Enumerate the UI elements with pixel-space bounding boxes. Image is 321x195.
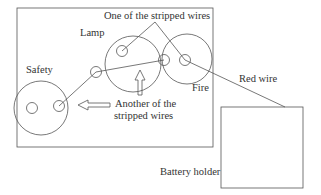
label-red-wire: Red wire [239,74,277,85]
lamp-switch-circle [105,36,161,92]
label-stripped-wire-another-2: stripped wires [114,111,173,122]
label-stripped-wire-another-1: Another of the [115,99,176,110]
wire-lamp-to-fire [96,60,164,72]
wiring-diagram: Lamp Safety Fire One of the stripped wir… [0,0,321,195]
label-stripped-wire-one: One of the stripped wires [104,11,210,22]
wire-safety-to-lamp [59,72,96,106]
control-panel-box [17,8,213,147]
safety-terminal-left [27,103,38,114]
battery-holder-box [221,107,303,188]
label-battery-holder: Battery holder [160,167,220,178]
safety-switch-circle [14,81,68,135]
label-fire: Fire [192,83,209,94]
label-lamp: Lamp [80,28,105,39]
left-arrow-icon [78,100,110,110]
stripped-wire-leader [122,22,185,60]
label-safety: Safety [26,65,53,76]
